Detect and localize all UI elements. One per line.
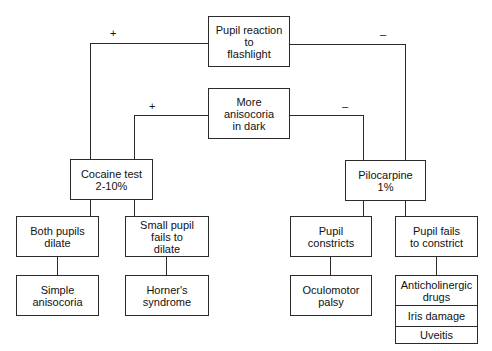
node-text: dilate [30,237,84,249]
node-text: Pupil fails [410,225,463,237]
edge-fails-to-causes [436,256,437,275]
edge-dark-to-cocaine-h [134,115,208,116]
edge-constricts-to-oculomotor [330,256,331,275]
node-causes-list: Anticholinergic drugs Iris damage Uveiti… [395,275,478,344]
node-pupil-constricts: Pupil constricts [290,216,372,257]
node-text: Uveitis [420,329,453,341]
node-text: anisocoria [224,108,274,120]
node-text: More [224,96,274,108]
node-text: dilate [140,243,194,255]
node-text: syndrome [143,296,191,308]
edge-label-negative: – [342,101,348,112]
node-text: Iris damage [408,310,465,322]
edge-both-to-simple [57,256,58,275]
edge-cocaine-to-small [134,199,135,216]
edge-root-to-pilocarpine-v [405,44,406,160]
node-text: Simple [32,284,82,296]
node-text: Cocaine test [81,168,142,180]
node-text: constricts [308,237,354,249]
edge-small-to-horner [166,256,167,275]
edge-label-positive: + [110,28,116,39]
node-pupil-reaction-flashlight: Pupil reaction to flashlight [208,16,290,67]
edge-root-to-cocaine-h [90,43,208,44]
cause-iris-damage: Iris damage [396,305,477,326]
node-text: to constrict [410,237,463,249]
node-text: flashlight [216,48,283,60]
node-oculomotor-palsy: Oculomotor palsy [290,275,372,316]
edge-root-to-cocaine-v [90,43,91,159]
edge-label-negative: – [380,29,386,40]
node-pupil-fails-constrict: Pupil fails to constrict [395,216,478,257]
node-text: palsy [303,296,360,308]
node-small-pupil-fails-dilate: Small pupil fails to dilate [125,216,209,257]
node-text: in dark [224,120,274,132]
edge-dark-to-cocaine-v [134,115,135,159]
cause-anticholinergic-drugs: Anticholinergic drugs [396,276,477,305]
node-text: Anticholinergic [401,279,473,291]
node-text: Oculomotor [303,284,360,296]
edge-pilo-to-constricts [363,200,364,216]
node-text: 2-10% [81,180,142,192]
node-text: Pilocarpine [358,169,412,181]
node-text: Pupil [308,225,354,237]
node-more-anisocoria-dark: More anisocoria in dark [208,88,290,139]
node-text: 1% [358,181,412,193]
edge-dark-to-pilocarpine-h [289,115,364,116]
node-text: fails to [140,231,194,243]
node-text: Small pupil [140,219,194,231]
node-text: to [216,36,283,48]
edge-root-to-pilocarpine-h [289,44,406,45]
edge-pilo-to-fails [405,200,406,216]
edge-dark-to-pilocarpine-v [363,115,364,160]
node-text: Both pupils [30,225,84,237]
edge-cocaine-to-both [90,199,91,216]
node-text: drugs [401,291,473,303]
node-cocaine-test: Cocaine test 2-10% [70,159,153,200]
node-both-pupils-dilate: Both pupils dilate [16,216,99,257]
node-text: Pupil reaction [216,24,283,36]
node-text: Horner's [143,284,191,296]
edge-label-positive: + [149,101,155,112]
node-pilocarpine: Pilocarpine 1% [345,160,426,201]
cause-uveitis: Uveitis [396,326,477,343]
node-simple-anisocoria: Simple anisocoria [16,275,99,316]
node-text: anisocoria [32,296,82,308]
node-horners-syndrome: Horner's syndrome [125,275,209,316]
